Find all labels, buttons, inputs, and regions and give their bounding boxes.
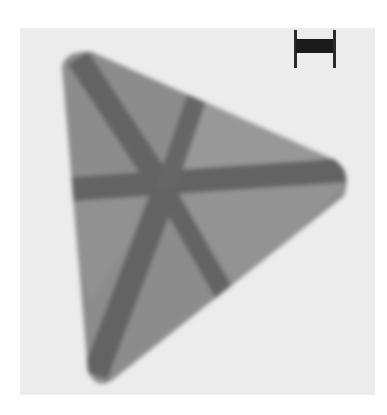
scale-bar-right-cap	[333, 30, 336, 68]
scale-bar	[294, 30, 336, 68]
scale-bar-body	[296, 39, 334, 53]
